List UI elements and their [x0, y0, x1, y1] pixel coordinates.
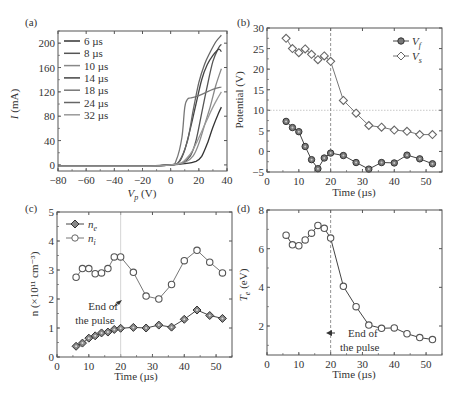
data-point: [98, 270, 104, 276]
data-point-center: [323, 157, 325, 159]
series-b-0: [283, 118, 436, 172]
y-axis-label-d: Te (eV): [237, 268, 252, 301]
data-point-center: [285, 120, 287, 122]
series-line: [286, 38, 432, 134]
data-point: [288, 45, 296, 53]
legend-label: 32 µs: [84, 109, 108, 121]
data-point: [315, 222, 321, 228]
x-tick-label: 0: [264, 358, 270, 370]
data-point: [340, 283, 346, 289]
data-point: [353, 303, 359, 309]
data-point-center: [132, 326, 134, 328]
data-point: [391, 325, 397, 331]
data-point-center: [431, 163, 433, 165]
legend-label-vf: Vf: [412, 35, 423, 50]
panel-b: (b) 01020304050−5051015202530 Potential …: [233, 16, 442, 199]
data-point-center: [311, 159, 313, 161]
legend-label: 24 µs: [84, 97, 108, 109]
y-tick-label: 40: [44, 135, 56, 147]
x-tick-label: 10: [293, 358, 305, 370]
data-point-center: [183, 318, 185, 320]
data-point-center: [355, 162, 357, 164]
legend-label-ne: ne: [88, 218, 98, 233]
annotation-line1-d: End of: [348, 327, 378, 339]
data-point: [86, 265, 92, 271]
y-tick-label: 120: [39, 86, 56, 98]
annotation-arrow-d: [326, 330, 335, 336]
data-point-center: [75, 345, 77, 347]
data-point-center: [317, 168, 319, 170]
y-tick-label: 8: [259, 204, 265, 216]
figure: (a) −80−60−40−2002040040801201602006 µs8…: [0, 0, 465, 401]
y-axis-unit-d: (eV): [237, 268, 250, 291]
y-axis-label-c: n (×10¹¹ cm⁻³): [28, 251, 41, 316]
data-point: [296, 243, 302, 249]
legend-marker-ne: [71, 220, 79, 228]
data-point: [219, 270, 225, 276]
annotation-line2-c: the pulse: [75, 314, 115, 326]
data-point: [416, 131, 424, 139]
data-point: [327, 235, 333, 241]
data-point-center: [298, 131, 300, 133]
series-c-0: [72, 306, 226, 350]
y-tick-label: 200: [39, 37, 56, 49]
y-axis-label-b: Potential (V): [233, 71, 246, 128]
data-point: [378, 123, 386, 131]
data-point: [111, 254, 117, 260]
x-tick-label: 10: [293, 175, 305, 187]
x-tick-label: 40: [389, 175, 401, 187]
x-tick-label: −40: [106, 174, 124, 186]
data-point: [194, 247, 200, 253]
series-line: [286, 226, 432, 340]
legend-label-ni: ni: [88, 232, 96, 247]
x-tick-label: 50: [211, 360, 223, 372]
legend-sub-vs: s: [419, 56, 422, 65]
data-point-center: [330, 152, 332, 154]
x-tick-label: 10: [83, 360, 95, 372]
data-point-center: [113, 328, 115, 330]
iv-curve: [58, 92, 221, 166]
x-tick-label: 0: [264, 175, 270, 187]
data-point: [378, 325, 384, 331]
data-point-center: [94, 335, 96, 337]
x-axis-unit-a: (V): [138, 187, 156, 200]
data-point: [92, 271, 98, 277]
data-point-center: [171, 326, 173, 328]
data-point-center: [291, 127, 293, 129]
data-point-center: [145, 327, 147, 329]
y-tick-label: 4: [259, 281, 265, 293]
data-point-center: [107, 331, 109, 333]
x-tick-label: −60: [78, 174, 96, 186]
data-point-center: [304, 145, 306, 147]
legend-label: 8 µs: [84, 47, 103, 59]
data-point: [143, 293, 149, 299]
arrow-head-d: [326, 330, 332, 336]
x-tick-label: 40: [179, 360, 191, 372]
legend-label: 10 µs: [84, 60, 108, 72]
x-tick-label: 40: [222, 174, 234, 186]
panel-c: (c) 01020304050012345 n (×10¹¹ cm⁻³) Tim…: [25, 202, 232, 383]
series-a-2: [58, 69, 221, 166]
data-point: [105, 265, 111, 271]
data-point: [79, 265, 85, 271]
x-axis-label-c: Time (µs): [114, 370, 158, 383]
data-point: [390, 126, 398, 134]
data-point-center: [381, 162, 383, 164]
legend-sub-vf: f: [419, 41, 423, 50]
x-tick-label: 50: [421, 175, 433, 187]
x-axis-label-b: Time (µs): [332, 186, 376, 199]
y-tick-label: 6: [259, 243, 265, 255]
y-tick-label: −5: [252, 166, 264, 178]
annotation-line2-d: the pulse: [340, 341, 380, 353]
data-point: [181, 258, 187, 264]
legend-label: 14 µs: [84, 72, 108, 84]
y-tick-label: 160: [39, 62, 56, 74]
data-point: [289, 242, 295, 248]
panel-label-b: (b): [237, 16, 250, 29]
data-point-center: [342, 155, 344, 157]
data-point: [282, 34, 290, 42]
y-tick-label: 0: [49, 351, 55, 363]
y-tick-label: 0: [50, 159, 56, 171]
data-point-center: [419, 158, 421, 160]
y-axis-label-a: I (mA): [8, 89, 21, 121]
